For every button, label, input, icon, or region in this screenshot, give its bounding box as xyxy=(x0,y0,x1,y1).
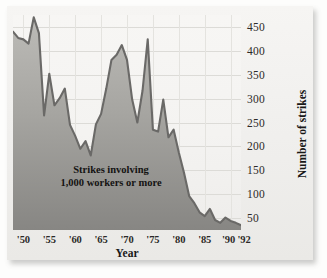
y-axis-tick-label: 250 xyxy=(247,117,281,129)
chart-card: Strikes involving 1,000 workers or more … xyxy=(7,6,313,260)
y-axis-tick-label: 50 xyxy=(247,212,281,224)
chart-figure: Strikes involving 1,000 workers or more … xyxy=(0,0,327,278)
chart-annotation: Strikes involving 1,000 workers or more xyxy=(31,163,191,190)
annotation-line-1: Strikes involving xyxy=(31,163,191,176)
x-axis-tick-label: '55 xyxy=(43,234,56,245)
x-axis-title: Year xyxy=(13,247,241,259)
y-axis-tick-label: 300 xyxy=(247,93,281,105)
area-series xyxy=(13,15,241,230)
y-axis-tick-label: 400 xyxy=(247,45,281,57)
y-axis-tick-label: 150 xyxy=(247,164,281,176)
x-axis-tick-label: '70 xyxy=(120,234,133,245)
x-axis-tick-label: '90 xyxy=(222,234,235,245)
x-axis-tick-label: '50 xyxy=(17,234,30,245)
annotation-line-2: 1,000 workers or more xyxy=(31,176,191,189)
x-axis-tick-label: '65 xyxy=(95,234,108,245)
area-fill xyxy=(13,17,241,230)
x-axis-tick-label: '92 xyxy=(237,234,250,245)
y-axis-tick-label: 450 xyxy=(247,21,281,33)
x-axis-tick-label: '85 xyxy=(198,234,211,245)
plot-area: Strikes involving 1,000 workers or more xyxy=(13,15,241,230)
y-axis-title-wrap: Number of strikes xyxy=(295,64,309,204)
x-axis-tick-label: '75 xyxy=(146,234,159,245)
x-axis-tick-label: '80 xyxy=(172,234,185,245)
y-axis-tick-label: 350 xyxy=(247,69,281,81)
y-axis-tick-label: 200 xyxy=(247,140,281,152)
y-axis-tick-label: 100 xyxy=(247,188,281,200)
y-axis-title: Number of strikes xyxy=(296,90,308,179)
x-axis-tick-label: '60 xyxy=(69,234,82,245)
